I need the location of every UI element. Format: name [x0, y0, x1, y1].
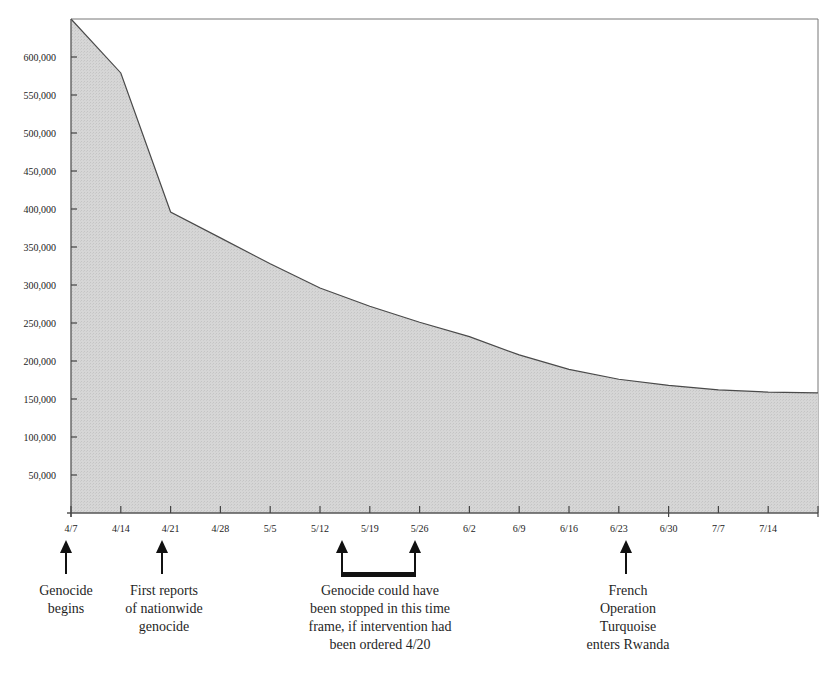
y-tick-label: 300,000	[24, 280, 57, 291]
annotation-line: Genocide could have	[308, 582, 451, 600]
y-tick-label: 100,000	[24, 432, 57, 443]
annotation-line: been stopped in this time	[308, 600, 451, 618]
y-axis: 50,000100,000150,000200,000250,000300,00…	[24, 19, 78, 517]
x-tick-label: 6/23	[610, 523, 628, 534]
x-tick-label: 5/26	[411, 523, 429, 534]
arrow-up-icon	[620, 540, 632, 574]
annotation-operation-turquoise: FrenchOperationTurquoiseenters Rwanda	[587, 582, 670, 654]
x-tick-label: 4/28	[212, 523, 230, 534]
x-tick-label: 5/5	[264, 523, 277, 534]
area-chart: 50,000100,000150,000200,000250,000300,00…	[0, 0, 840, 678]
bracket-bar	[341, 572, 416, 577]
y-tick-label: 600,000	[24, 52, 57, 63]
bracket-arrow-left-icon	[336, 540, 348, 576]
x-tick-label: 6/30	[660, 523, 678, 534]
annotation-line: genocide	[125, 618, 202, 636]
y-tick-label: 350,000	[24, 242, 57, 253]
x-tick-label: 7/14	[759, 523, 777, 534]
y-tick-label: 500,000	[24, 128, 57, 139]
x-tick-label: 7/7	[712, 523, 725, 534]
x-tick-label: 5/12	[311, 523, 329, 534]
annotation-intervention-window: Genocide could havebeen stopped in this …	[308, 582, 451, 654]
x-tick-label: 4/7	[65, 523, 78, 534]
x-tick-label: 6/9	[513, 523, 526, 534]
annotation-line: frame, if intervention had	[308, 618, 451, 636]
bracket-arrow-right-icon	[409, 540, 421, 576]
y-tick-label: 200,000	[24, 356, 57, 367]
x-tick-label: 6/16	[560, 523, 578, 534]
annotation-line: French	[587, 582, 670, 600]
y-tick-label: 450,000	[24, 166, 57, 177]
y-tick-label: 50,000	[29, 470, 57, 481]
annotation-line: been ordered 4/20	[308, 636, 451, 654]
annotation-line: begins	[39, 600, 93, 618]
data-area	[71, 19, 818, 513]
annotation-line: enters Rwanda	[587, 636, 670, 654]
annotation-first-reports: First reportsof nationwidegenocide	[125, 582, 202, 636]
annotation-genocide-begins: Genocidebegins	[39, 582, 93, 618]
arrow-up-icon	[60, 540, 72, 574]
annotation-line: First reports	[125, 582, 202, 600]
y-tick-label: 400,000	[24, 204, 57, 215]
x-tick-label: 4/14	[112, 523, 130, 534]
x-tick-label: 4/21	[162, 523, 180, 534]
x-tick-label: 6/2	[463, 523, 476, 534]
annotation-arrows	[60, 540, 632, 577]
annotation-line: Operation	[587, 600, 670, 618]
x-tick-label: 5/19	[361, 523, 379, 534]
annotation-line: Turquoise	[587, 618, 670, 636]
y-tick-label: 250,000	[24, 318, 57, 329]
y-tick-label: 150,000	[24, 394, 57, 405]
arrow-up-icon	[156, 540, 168, 574]
annotation-line: Genocide	[39, 582, 93, 600]
annotation-line: of nationwide	[125, 600, 202, 618]
area-fill	[71, 19, 818, 513]
y-tick-label: 550,000	[24, 90, 57, 101]
